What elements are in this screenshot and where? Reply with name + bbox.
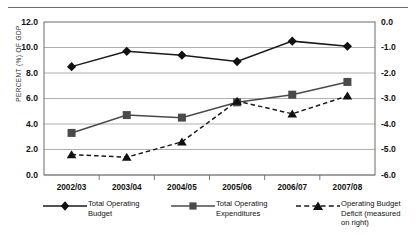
y-axis-right-tick-label: -4.0 [381,119,416,129]
data-point-marker [343,78,351,86]
data-point-marker [177,137,187,145]
legend-item-total-operating-budget: Total Operating Budget [42,199,140,218]
series-line-1 [72,82,348,133]
y-axis-right-tick-label: -1.0 [381,42,416,52]
legend-label-operating-budget-deficit: Operating Budget Deficit (measured on ri… [341,199,401,228]
data-point-marker [288,37,297,46]
data-point-marker [177,51,186,60]
series-line-2 [72,96,348,157]
data-point-marker [123,111,131,119]
y-axis-right-tick-label: -5.0 [381,144,416,154]
y-axis-left-tick-label: 10.0 [2,42,38,52]
data-point-marker [232,57,241,66]
y-axis-left-tick-label: 4.0 [2,119,38,129]
y-axis-right-tick-label: 0.0 [381,17,416,27]
x-axis-category-label: 2003/04 [99,183,155,192]
legend-label-line-1: Operating Budget [341,199,401,208]
series-line-0 [72,41,348,66]
legend-label-line-2: Budget [88,209,112,218]
chart-container: PERCENT (%) OF GDP 0.02.04.06.08.010.012… [0,0,416,235]
data-point-marker [122,47,131,56]
y-axis-left-tick-label: 12.0 [2,17,38,27]
legend-label-line-2: Expenditures [216,209,260,218]
legend-key-square-icon [170,200,216,212]
x-axis-category-label: 2002/03 [44,183,100,192]
data-point-marker [67,62,76,71]
y-axis-right-tick-label: -2.0 [381,68,416,78]
y-axis-right-tick-label: -3.0 [381,93,416,103]
x-axis-category-label: 2006/07 [264,183,320,192]
legend-item-total-operating-expenditures: Total Operating Expenditures [170,199,268,218]
data-point-marker [122,153,132,161]
data-point-marker [68,129,76,137]
y-axis-left-tick-label: 6.0 [2,93,38,103]
legend-label-line-1: Total Operating [216,199,268,208]
legend-key-triangle-icon [295,200,341,212]
y-axis-right-tick-label: -6.0 [381,170,416,180]
x-axis-category-label: 2007/08 [319,183,375,192]
legend-key-diamond-icon [42,200,88,212]
y-axis-left-tick-label: 8.0 [2,68,38,78]
x-axis-category-label: 2005/06 [209,183,265,192]
x-axis-category-label: 2004/05 [154,183,210,192]
legend-label-line-1: Total Operating [88,199,140,208]
data-point-marker [343,42,352,51]
legend-label-line-2: Deficit (measured [341,209,401,218]
data-point-marker [288,91,296,99]
top-divider-rule [8,7,408,8]
legend-item-operating-budget-deficit: Operating Budget Deficit (measured on ri… [295,199,401,228]
chart-legend: Total Operating Budget Total Operating E… [0,196,416,235]
legend-label-line-3: on right) [341,218,369,227]
y-axis-left-tick-label: 2.0 [2,144,38,154]
y-axis-left-tick-label: 0.0 [2,170,38,180]
data-point-marker [178,114,186,122]
data-point-marker [343,92,353,100]
legend-label-total-operating-expenditures: Total Operating Expenditures [216,199,268,218]
legend-label-total-operating-budget: Total Operating Budget [88,199,140,218]
